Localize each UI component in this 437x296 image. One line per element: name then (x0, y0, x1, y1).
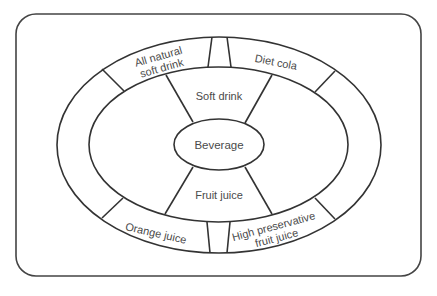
beverage-hierarchy-diagram: Beverage Soft drink Fruit juice All natu… (0, 0, 437, 296)
center-label: Beverage (194, 139, 243, 151)
middle-label-soft-drink: Soft drink (196, 90, 243, 102)
middle-label-fruit-juice: Fruit juice (195, 189, 243, 201)
